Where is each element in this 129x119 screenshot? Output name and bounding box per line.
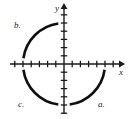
arc-b xyxy=(23,23,58,58)
coordinate-plane-figure: y x b. c. a. xyxy=(0,0,129,119)
x-axis-label: x xyxy=(118,67,123,77)
y-axis-label: y xyxy=(54,3,59,13)
y-axis-arrowhead xyxy=(61,3,68,9)
y-axis-group xyxy=(61,3,68,114)
x-axis-group xyxy=(10,61,125,68)
arc-a-label: a. xyxy=(98,99,105,109)
arc-c-label: c. xyxy=(18,99,24,109)
arc-c xyxy=(23,70,58,105)
arc-b-label: b. xyxy=(14,20,21,30)
